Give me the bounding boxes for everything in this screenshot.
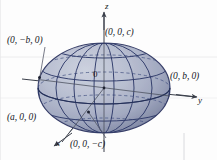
origin-point — [103, 87, 106, 90]
label-point-neg-b: (0, −b, 0) — [7, 36, 43, 46]
ellipsoid-figure: (0, −b, 0) (0, 0, c) (0, b, 0) (a, 0, 0)… — [0, 0, 217, 160]
point-marker-neg-b — [38, 76, 41, 79]
label-point-pos-b: (0, b, 0) — [170, 72, 199, 82]
label-point-pos-a: (a, 0, 0) — [7, 113, 36, 123]
label-axis-z: z — [105, 2, 108, 11]
label-point-pos-c: (0, 0, c) — [105, 28, 134, 38]
label-point-neg-c: (0, 0, −c) — [70, 140, 105, 150]
label-origin: 0 — [93, 70, 97, 79]
label-axis-x: x — [56, 139, 60, 148]
point-marker-neg-c — [87, 111, 90, 114]
label-axis-y: y — [198, 96, 202, 105]
